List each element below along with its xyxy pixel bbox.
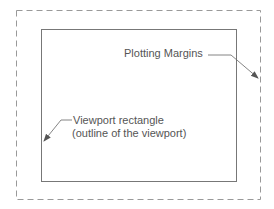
viewport-label-line1: Viewport rectangle: [73, 114, 164, 126]
plotting-margins-label: Plotting Margins: [124, 47, 203, 59]
plotting-margins-dashed-rect: [17, 11, 261, 200]
plotting-margins-leader-arrow: [208, 55, 258, 78]
viewport-label-line2: (outline of the viewport): [72, 127, 186, 139]
viewport-leader-arrow: [44, 120, 72, 141]
viewport-diagram: Plotting Margins Viewport rectangle (out…: [0, 0, 274, 209]
